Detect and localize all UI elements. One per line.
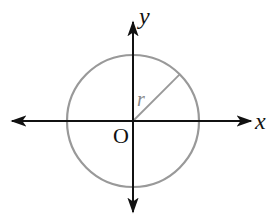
y-axis-label: y [139, 4, 150, 28]
origin-label: O [113, 125, 129, 147]
radius-label: r [137, 89, 145, 109]
x-axis-label: x [255, 109, 266, 133]
